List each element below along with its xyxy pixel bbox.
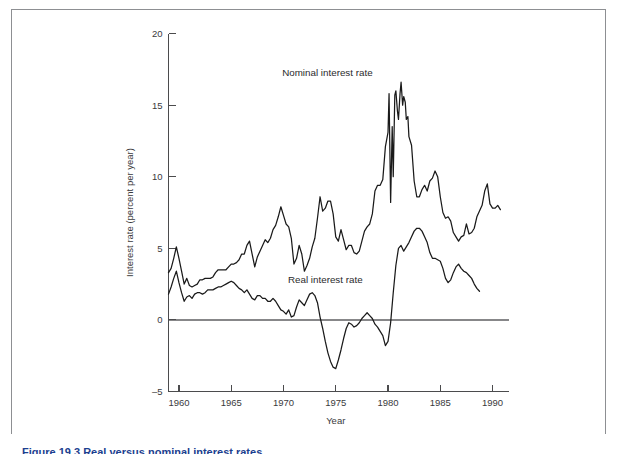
y-axis-title: Interest rate (percent per year)	[124, 148, 135, 277]
y-tick-labels: –505101520	[152, 28, 163, 397]
x-tick-label: 1980	[377, 397, 398, 408]
y-tick-label: 0	[157, 314, 162, 325]
series-line-nominal-interest-rate	[169, 82, 501, 287]
x-tick-label: 1985	[430, 397, 451, 408]
y-tick-label: 5	[157, 243, 162, 254]
series-lines	[169, 82, 501, 368]
x-tick-label: 1990	[482, 397, 503, 408]
chart-svg: –505101520 1960196519701975198019851990 …	[0, 0, 629, 454]
x-tick-labels: 1960196519701975198019851990	[168, 397, 503, 408]
interest-rate-chart: –505101520 1960196519701975198019851990 …	[0, 0, 629, 454]
y-tick-label: 10	[152, 171, 163, 182]
x-tick-label: 1960	[168, 397, 189, 408]
x-tick-label: 1975	[325, 397, 346, 408]
x-tick-marks	[179, 385, 493, 392]
x-axis-title: Year	[326, 415, 345, 426]
series-line-real-interest-rate	[169, 228, 480, 368]
figure-page: –505101520 1960196519701975198019851990 …	[0, 0, 629, 454]
y-tick-label: 15	[152, 100, 163, 111]
y-tick-label: –5	[152, 386, 163, 397]
y-tick-marks	[169, 34, 176, 392]
x-tick-label: 1970	[273, 397, 294, 408]
real-label: Real interest rate	[288, 274, 363, 285]
x-tick-label: 1965	[221, 397, 242, 408]
nominal-label: Nominal interest rate	[282, 67, 373, 78]
y-tick-label: 20	[152, 28, 163, 39]
series-annotations: Nominal interest rateReal interest rate	[282, 67, 373, 284]
figure-caption: Figure 19.3 Real versus nominal interest…	[22, 446, 582, 454]
